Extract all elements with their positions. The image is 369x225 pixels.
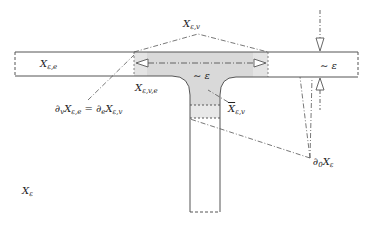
label-x-eps-v-bar-sub: ε,v (235, 108, 245, 116)
label-x-eps-v-sub: ε,v (190, 23, 200, 31)
lhs-sub: ε,e (71, 108, 81, 116)
label-x-eps-e-sub: ε,e (47, 63, 57, 71)
label-x-eps-sub: ε (29, 190, 33, 198)
label-boundary-equation: ∂vXε,e = ∂eXε,v (55, 104, 123, 116)
label-eps-right-text: ∼ ε (320, 60, 337, 71)
d0-base: X (323, 156, 330, 167)
up-arrowhead-icon (316, 78, 324, 90)
label-x-eps-v: Xε,v (183, 19, 200, 31)
down-arrowhead-icon (316, 38, 324, 51)
label-x-eps-v-e-sub: ε,v,e (142, 87, 157, 95)
label-x-eps-v-bar: Xε,v (228, 104, 245, 116)
label-x-eps: Xε (22, 186, 33, 198)
stem-transition-region (190, 105, 220, 118)
label-eps-right: ∼ ε (320, 61, 337, 71)
label-d0-x-eps: ∂0Xε (313, 157, 334, 169)
equals-sign: = (81, 103, 96, 114)
rhs-sub: ε,v (113, 108, 123, 116)
label-x-eps-v-e: Xε,v,e (135, 83, 158, 95)
rhs-base: X (105, 103, 112, 114)
label-eps-junction-text: ∼ ε (193, 70, 210, 81)
label-x-eps-e: Xε,e (40, 59, 57, 71)
label-eps-junction: ∼ ε (193, 71, 210, 81)
d0-sub: ε (330, 161, 334, 169)
